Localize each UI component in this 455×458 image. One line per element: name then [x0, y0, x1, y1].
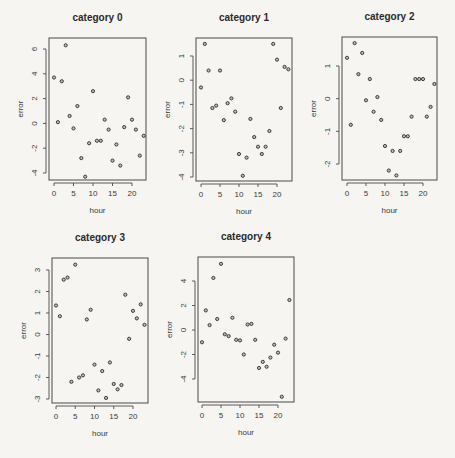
x-tick-label: 20	[274, 411, 283, 420]
data-point	[260, 152, 263, 155]
y-tick-label: 0	[179, 327, 188, 332]
y-tick-label: 0	[323, 96, 332, 101]
data-point	[372, 110, 375, 113]
data-point	[395, 174, 398, 177]
data-point	[107, 128, 110, 131]
x-tick-label: 15	[400, 189, 409, 198]
x-tick-label: 5	[73, 412, 78, 421]
data-point	[230, 97, 233, 100]
data-point	[249, 117, 252, 120]
data-point	[95, 139, 98, 142]
data-point	[62, 278, 65, 281]
data-point	[123, 126, 126, 129]
y-tick-label: -1	[33, 352, 42, 360]
data-point	[101, 369, 104, 372]
data-point	[380, 118, 383, 121]
data-point	[273, 343, 276, 346]
scatter-plot-grid: category 0 hour error 05101520-4-20246 c…	[0, 0, 455, 458]
data-point	[81, 374, 84, 377]
x-axis-label: hour	[236, 207, 252, 216]
x-axis-label: hour	[381, 206, 397, 215]
y-tick-label: 4	[179, 278, 188, 283]
x-tick-label: 5	[219, 411, 224, 420]
x-tick-label: 15	[255, 411, 264, 420]
data-point	[104, 396, 107, 399]
data-point	[131, 309, 134, 312]
y-axis-label: error	[309, 100, 318, 117]
x-tick-label: 0	[345, 189, 350, 198]
x-tick-label: 10	[89, 189, 98, 198]
data-point	[226, 102, 229, 105]
y-tick-label: -3	[177, 149, 186, 157]
data-point	[60, 80, 63, 83]
data-point	[115, 143, 118, 146]
data-point	[66, 276, 69, 279]
data-point	[204, 309, 207, 312]
data-point	[238, 339, 241, 342]
data-point	[64, 44, 67, 47]
data-point	[56, 121, 59, 124]
data-point	[364, 99, 367, 102]
x-tick-label: 0	[199, 190, 204, 199]
data-point	[264, 145, 267, 148]
x-tick-label: 0	[52, 189, 57, 198]
data-point	[134, 128, 137, 131]
data-point	[52, 76, 55, 79]
data-point	[376, 95, 379, 98]
data-point	[70, 380, 73, 383]
data-point	[223, 333, 226, 336]
data-point	[368, 77, 371, 80]
data-point	[246, 323, 249, 326]
y-tick-label: -2	[323, 160, 332, 168]
x-tick-label: 5	[218, 190, 223, 199]
x-tick-label: 5	[71, 189, 76, 198]
data-point	[276, 351, 279, 354]
x-tick-label: 20	[419, 189, 428, 198]
y-tick-label: -2	[179, 350, 188, 358]
x-tick-label: 0	[54, 412, 59, 421]
data-point	[200, 341, 203, 344]
y-tick-label: 1	[33, 310, 42, 315]
panel-category-3: category 3 hour error 05101520-3-2-10123	[19, 232, 148, 438]
data-point	[127, 96, 130, 99]
data-point	[272, 42, 275, 45]
data-point	[250, 322, 253, 325]
y-tick-label: -2	[33, 373, 42, 381]
y-tick-label: -4	[30, 169, 39, 177]
data-point	[68, 114, 71, 117]
data-point	[283, 65, 286, 68]
data-point	[99, 139, 102, 142]
panel-title: category 0	[72, 12, 122, 23]
y-tick-label: 2	[33, 289, 42, 294]
y-tick-label: -2	[177, 124, 186, 132]
data-point	[410, 115, 413, 118]
data-point	[58, 315, 61, 318]
data-point	[124, 293, 127, 296]
data-point	[219, 262, 222, 265]
data-point	[279, 106, 282, 109]
plot-frame	[52, 258, 148, 403]
x-axis-label: hour	[238, 428, 254, 437]
y-tick-label: 0	[30, 121, 39, 126]
x-tick-label: 10	[236, 411, 245, 420]
y-tick-label: 1	[177, 53, 186, 58]
data-point	[211, 106, 214, 109]
y-tick-label: 1	[323, 63, 332, 68]
data-point	[218, 69, 221, 72]
panel-category-2: category 2 hour error 05101520-2-101	[309, 11, 437, 215]
data-point	[93, 363, 96, 366]
data-point	[227, 335, 230, 338]
data-point	[91, 90, 94, 93]
data-point	[284, 337, 287, 340]
data-point	[128, 337, 131, 340]
data-point	[237, 152, 240, 155]
data-point	[234, 110, 237, 113]
data-point	[254, 338, 257, 341]
data-point	[391, 149, 394, 152]
y-tick-label: -4	[177, 173, 186, 181]
y-tick-label: -3	[33, 395, 42, 403]
data-point	[269, 356, 272, 359]
data-point	[268, 129, 271, 132]
data-point	[253, 135, 256, 138]
x-tick-label: 10	[235, 190, 244, 199]
